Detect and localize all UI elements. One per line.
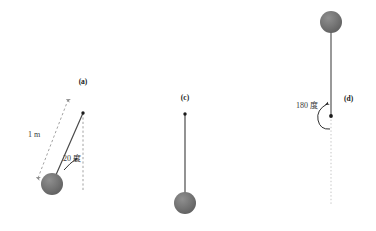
pendulum-bob-d (320, 11, 342, 33)
pendulum-bob-c (174, 192, 196, 214)
panel-label-d: (d) (344, 94, 354, 103)
pivot-point-d (329, 114, 333, 118)
pivot-point-a (81, 111, 84, 114)
pivot-point-c (183, 112, 186, 115)
pendulum-figure: (a) 1 m 20 度 (c) 180 度 (d) (0, 0, 376, 231)
pendulum-bob-a (41, 173, 63, 195)
figure-canvas: (a) 1 m 20 度 (c) 180 度 (d) (0, 0, 376, 231)
angle-label-d: 180 度 (296, 100, 318, 110)
length-label-a: 1 m (28, 130, 41, 139)
panel-label-a: (a) (79, 77, 88, 86)
angle-label-a: 20 度 (63, 153, 81, 163)
panel-label-c: (c) (181, 93, 190, 102)
